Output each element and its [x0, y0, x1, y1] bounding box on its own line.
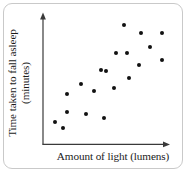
- scatter-plot-figure: Time taken to fall asleep (minutes) Amou…: [0, 0, 188, 175]
- y-axis-label-line2: (minutes): [19, 19, 32, 147]
- y-axis-arrowhead: [40, 13, 46, 20]
- x-axis-label: Amount of light (lumens): [42, 150, 184, 162]
- x-axis-arrowhead: [163, 142, 170, 148]
- y-axis-label-line1: Time taken to fall asleep: [6, 19, 19, 147]
- y-axis-label: Time taken to fall asleep (minutes): [6, 19, 36, 147]
